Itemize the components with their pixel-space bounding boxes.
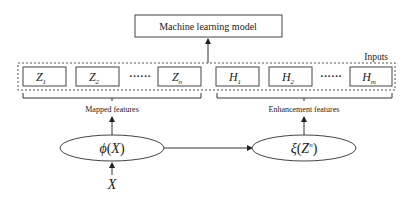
phi-node: ϕ(X)	[60, 135, 164, 161]
model-box: Machine learning model	[135, 15, 282, 37]
enhancement-features-label: Enhancement features	[269, 105, 340, 114]
svg-text:ξ(Zn): ξ(Zn)	[291, 141, 318, 157]
node-h2: H2	[269, 67, 312, 86]
inputs-label: Inputs	[364, 52, 388, 62]
node-zn: Zn	[158, 67, 201, 86]
node-hm: Hm	[350, 67, 392, 86]
mapped-features-label: Mapped features	[85, 105, 139, 114]
node-z1: Z1	[23, 67, 66, 86]
input-x-label: X	[107, 177, 117, 192]
ellipsis-enhancement: ······	[320, 70, 342, 82]
svg-text:ϕ(X): ϕ(X)	[99, 141, 124, 157]
model-label: Machine learning model	[159, 21, 257, 32]
xi-node: ξ(Zn)	[252, 135, 356, 161]
enhancement-bracket	[217, 93, 392, 101]
mapped-bracket	[23, 93, 201, 101]
ellipsis-mapped: ······	[129, 70, 151, 82]
node-h1: H1	[216, 67, 259, 86]
node-z2: Z2	[76, 67, 119, 86]
